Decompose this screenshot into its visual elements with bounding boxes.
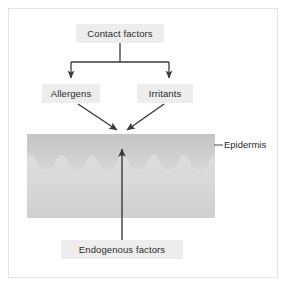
label-epidermis: Epidermis: [224, 140, 266, 150]
node-irritants-label: Irritants: [149, 89, 182, 99]
epidermis-block: [27, 134, 215, 218]
node-contact-factors[interactable]: Contact factors: [76, 24, 164, 43]
node-allergens[interactable]: Allergens: [42, 84, 100, 103]
node-contact-factors-label: Contact factors: [87, 29, 152, 39]
node-endogenous-factors[interactable]: Endogenous factors: [61, 240, 183, 259]
node-allergens-label: Allergens: [51, 89, 92, 99]
figure-root: Contact factors Allergens Irritants Endo…: [0, 0, 287, 288]
connector-irritants-to-epidermis: [127, 104, 164, 130]
node-irritants[interactable]: Irritants: [137, 84, 193, 103]
node-endogenous-factors-label: Endogenous factors: [79, 245, 165, 255]
connector-allergens-to-epidermis: [78, 104, 117, 130]
